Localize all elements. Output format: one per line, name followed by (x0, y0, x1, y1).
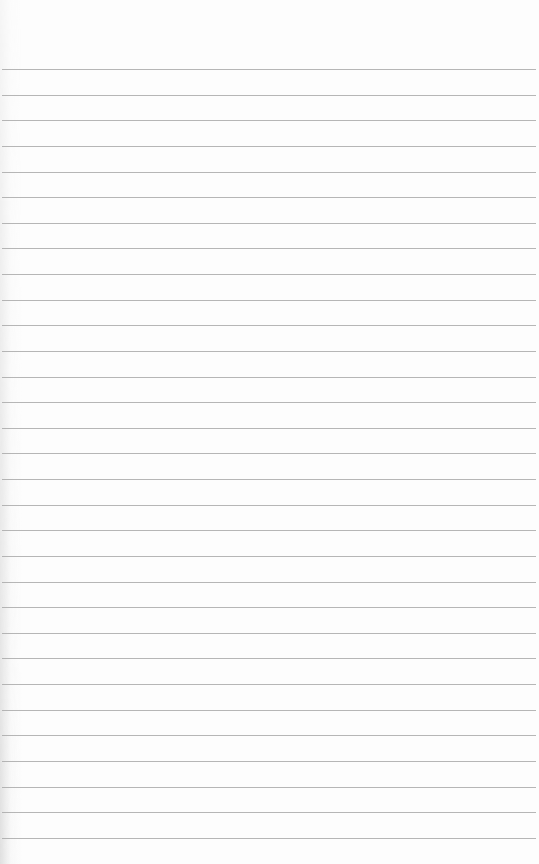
ruled-line (2, 710, 536, 711)
lined-paper-sheet (0, 0, 539, 864)
ruled-line (2, 325, 536, 326)
ruled-line (2, 838, 536, 839)
ruled-line (2, 658, 536, 659)
ruled-line (2, 428, 536, 429)
ruled-line (2, 377, 536, 378)
ruled-line (2, 223, 536, 224)
ruled-line (2, 812, 536, 813)
ruled-line (2, 479, 536, 480)
ruled-line (2, 197, 536, 198)
ruled-line (2, 453, 536, 454)
ruled-line (2, 351, 536, 352)
ruled-line (2, 505, 536, 506)
ruled-line (2, 582, 536, 583)
ruled-line (2, 556, 536, 557)
ruled-line (2, 300, 536, 301)
ruled-line (2, 402, 536, 403)
ruled-line (2, 120, 536, 121)
ruled-line (2, 172, 536, 173)
ruled-line (2, 248, 536, 249)
ruled-line (2, 787, 536, 788)
ruled-line (2, 633, 536, 634)
ruled-line (2, 735, 536, 736)
ruled-line (2, 761, 536, 762)
ruled-line (2, 69, 536, 70)
ruled-line (2, 607, 536, 608)
ruled-line (2, 95, 536, 96)
ruled-line (2, 274, 536, 275)
ruled-line (2, 146, 536, 147)
ruled-line (2, 530, 536, 531)
ruled-line (2, 684, 536, 685)
